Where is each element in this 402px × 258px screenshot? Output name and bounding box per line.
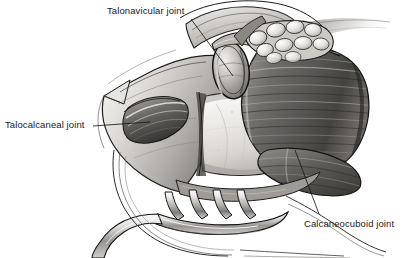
anatomical-figure: Talonavicular joint Talocalcaneal joint … xyxy=(0,0,402,258)
label-calcaneocuboid-joint: Calcaneocuboid joint xyxy=(304,218,394,229)
label-talocalcaneal-joint: Talocalcaneal joint xyxy=(5,119,85,130)
label-talonavicular-joint: Talonavicular joint xyxy=(107,5,184,16)
